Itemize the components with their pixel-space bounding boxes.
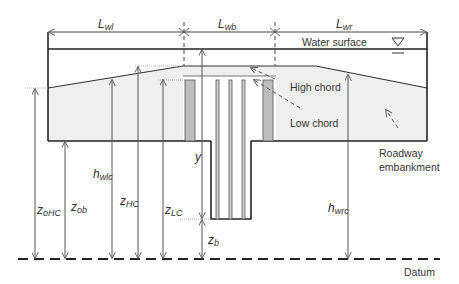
label-h-wlc: hwlc [93, 167, 113, 182]
label-water-surface: Water surface [302, 36, 367, 48]
bridge-diagram: Lwl Lwb Lwr Water surface High chord Low… [0, 0, 459, 284]
label-h-wrc: hwrc [328, 201, 349, 216]
label-datum: Datum [404, 266, 435, 278]
label-z-LC: zLC [164, 203, 183, 218]
label-y: y [194, 150, 202, 164]
label-z-HC: zHC [119, 194, 139, 209]
label-L-wb: Lwb [218, 17, 236, 32]
label-high-chord: High chord [290, 81, 341, 93]
left-abutment [185, 80, 195, 141]
label-z-ob: zob [70, 200, 87, 215]
label-z-b: zb [207, 233, 219, 248]
water-surface-icon [392, 38, 404, 46]
label-embankment: embankment [379, 161, 440, 173]
label-low-chord: Low chord [290, 117, 339, 129]
right-abutment [263, 80, 273, 141]
label-z-oHC: zoHC [36, 203, 62, 218]
label-L-wl: Lwl [98, 17, 114, 32]
label-roadway: Roadway [379, 147, 424, 159]
label-L-wr: Lwr [336, 17, 353, 32]
